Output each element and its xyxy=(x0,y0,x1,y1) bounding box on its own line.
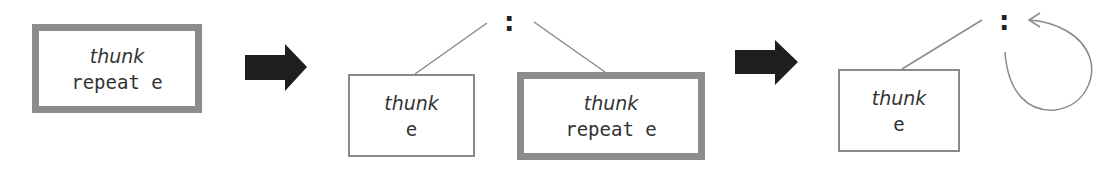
cons-node-2: : xyxy=(999,8,1009,34)
self-loop-arrow xyxy=(1005,20,1092,110)
thunk-label: thunk xyxy=(384,90,439,116)
thunk-box-tail: thunk repeat e xyxy=(517,72,705,160)
thunk-box-repeat: thunk repeat e xyxy=(32,24,202,113)
thunk-box-head-2: thunk e xyxy=(838,69,960,152)
transition-arrow-1 xyxy=(245,44,307,91)
thunk-label: thunk xyxy=(584,90,639,116)
thunk-box-head: thunk e xyxy=(348,74,475,157)
edge-cons-to-tail xyxy=(534,22,605,72)
transition-arrow-2 xyxy=(735,40,798,85)
edge-cons-to-head-2 xyxy=(902,20,982,69)
thunk-expr: repeat e xyxy=(71,69,163,95)
thunk-label: thunk xyxy=(872,85,927,111)
edge-cons-to-head xyxy=(415,23,487,74)
thunk-label: thunk xyxy=(90,43,145,69)
thunk-expr: repeat e xyxy=(565,116,657,142)
thunk-expr: e xyxy=(406,116,417,142)
thunk-expr: e xyxy=(893,111,904,137)
cons-node: : xyxy=(504,9,514,35)
diagram-canvas: thunk repeat e : thunk e thunk repeat e … xyxy=(0,0,1120,170)
